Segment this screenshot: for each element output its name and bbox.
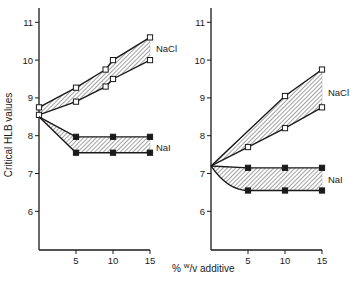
filled-square-marker (282, 165, 287, 170)
filled-square-marker (147, 134, 152, 139)
open-square-marker (319, 67, 324, 72)
filled-square-marker (319, 188, 324, 193)
panel-left: 6789101151015NaClNaI (22, 8, 177, 266)
open-square-marker (110, 76, 115, 81)
open-square-marker (245, 144, 250, 149)
open-square-marker (73, 85, 78, 90)
x-axis-label-suffix: /v additive (189, 263, 234, 274)
series-label-nai: NaI (156, 142, 171, 153)
band-nai: NaI (39, 117, 171, 156)
series-label-nai: NaI (328, 174, 343, 185)
panels-layer: 6789101151015NaClNaI6789101151015NaClNaI (22, 8, 349, 266)
band-nai: NaI (211, 165, 343, 193)
y-tick-label: 6 (200, 206, 205, 217)
filled-square-marker (245, 188, 250, 193)
y-tick-label: 8 (28, 130, 33, 141)
x-tick-label: 10 (108, 255, 119, 266)
x-axis-label: % w/v additive (172, 261, 235, 274)
x-tick-label: 15 (145, 255, 156, 266)
filled-square-marker (110, 150, 115, 155)
filled-square-marker (73, 150, 78, 155)
y-tick-label: 11 (23, 17, 33, 28)
open-square-marker (73, 99, 78, 104)
x-axis-label-prefix: % (172, 263, 184, 274)
open-square-marker (36, 105, 41, 110)
open-square-marker (147, 35, 152, 40)
series-label-nacl: NaCl (156, 43, 177, 54)
hlb-chart-figure: 6789101151015NaClNaI6789101151015NaClNaI… (0, 0, 362, 291)
y-axis-label: Critical HLB values (3, 93, 14, 177)
x-tick-label: 5 (245, 255, 250, 266)
series-label-nacl: NaCl (328, 87, 349, 98)
filled-square-marker (73, 134, 78, 139)
y-tick-label: 10 (194, 55, 205, 66)
band-hatch-fill (39, 117, 150, 153)
x-tick-label: 5 (73, 255, 78, 266)
band-nacl: NaCl (211, 67, 349, 166)
x-tick-label: 15 (317, 255, 328, 266)
filled-square-marker (319, 165, 324, 170)
x-tick-label: 10 (280, 255, 291, 266)
open-square-marker (319, 105, 324, 110)
open-square-marker (110, 58, 115, 63)
open-square-marker (147, 58, 152, 63)
panel-right: 6789101151015NaClNaI (194, 8, 349, 266)
y-tick-label: 9 (28, 92, 33, 103)
open-square-marker (282, 93, 287, 98)
y-tick-label: 6 (28, 206, 33, 217)
y-tick-label: 9 (200, 92, 205, 103)
filled-square-marker (282, 188, 287, 193)
y-tick-label: 8 (200, 130, 205, 141)
band-hatch-fill (211, 166, 322, 191)
y-tick-label: 7 (200, 168, 205, 179)
band-hatch-fill (211, 70, 322, 166)
chart-canvas: 6789101151015NaClNaI6789101151015NaClNaI… (0, 0, 362, 291)
filled-square-marker (147, 150, 152, 155)
y-tick-label: 11 (195, 17, 205, 28)
open-square-marker (282, 126, 287, 131)
filled-square-marker (245, 165, 250, 170)
y-tick-label: 7 (28, 168, 33, 179)
open-square-marker (36, 112, 41, 117)
open-square-marker (103, 67, 108, 72)
upper-line (39, 37, 150, 107)
band-nacl: NaCl (36, 35, 177, 118)
filled-square-marker (110, 134, 115, 139)
open-square-marker (103, 84, 108, 89)
y-tick-label: 10 (22, 55, 33, 66)
